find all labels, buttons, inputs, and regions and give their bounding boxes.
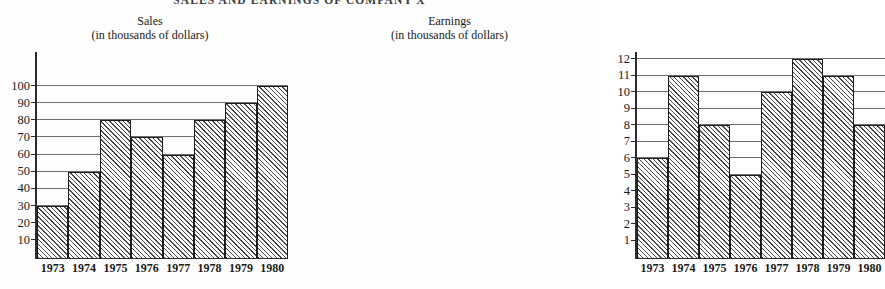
- y-axis-label: 11: [618, 69, 630, 82]
- bar-slot[interactable]: [100, 52, 131, 258]
- y-axis-label: 20: [18, 217, 31, 230]
- y-axis-label: 8: [624, 119, 630, 132]
- x-axis-label: 1977: [163, 261, 194, 275]
- bar[interactable]: [761, 92, 792, 257]
- bar-slot[interactable]: [257, 52, 288, 258]
- bar-slot[interactable]: [637, 52, 668, 258]
- x-axis-labels-sales: 19731974197519761977197819791980: [37, 261, 288, 275]
- bar-slot[interactable]: [225, 52, 256, 258]
- bar[interactable]: [37, 206, 68, 257]
- y-axis-label: 30: [18, 200, 31, 213]
- bar[interactable]: [163, 155, 194, 258]
- bar-slot[interactable]: [699, 52, 730, 258]
- bar-slot[interactable]: [37, 52, 68, 258]
- bar[interactable]: [854, 125, 885, 257]
- x-axis-label: 1977: [761, 261, 792, 275]
- y-axis-label: 12: [618, 53, 631, 66]
- bar-slot[interactable]: [68, 52, 99, 258]
- y-axis-label: 10: [18, 234, 31, 247]
- x-axis-line-sales: [35, 258, 288, 260]
- bar[interactable]: [257, 86, 288, 258]
- y-axis-label: 90: [18, 97, 31, 110]
- bar-group-earnings: [637, 52, 885, 258]
- y-axis-label: 40: [18, 183, 31, 196]
- y-axis-label: 80: [18, 114, 31, 127]
- y-axis-label: 70: [18, 131, 31, 144]
- x-axis-label: 1980: [854, 261, 885, 275]
- x-axis-line-earnings: [635, 258, 885, 260]
- y-axis-label: 1: [624, 235, 630, 248]
- bar-slot[interactable]: [194, 52, 225, 258]
- bar[interactable]: [225, 103, 256, 257]
- bar-slot[interactable]: [730, 52, 761, 258]
- x-axis-label: 1980: [257, 261, 288, 275]
- bar-group-sales: [37, 52, 288, 258]
- plot-area-earnings: 123456789101112: [635, 52, 885, 259]
- chart-title-main-earnings: Earnings: [300, 14, 599, 28]
- bar-slot[interactable]: [131, 52, 162, 258]
- y-axis-label: 7: [624, 135, 630, 148]
- bar-slot[interactable]: [823, 52, 854, 258]
- x-axis-label: 1975: [100, 261, 131, 275]
- x-axis-label: 1974: [68, 261, 99, 275]
- x-axis-label: 1973: [637, 261, 668, 275]
- bar[interactable]: [194, 120, 225, 257]
- bar[interactable]: [823, 76, 854, 258]
- bar[interactable]: [730, 175, 761, 258]
- y-axis-label: 9: [624, 102, 630, 115]
- bar[interactable]: [100, 120, 131, 257]
- page-title: SALES AND EARNINGS OF COMPANY X: [0, 0, 599, 6]
- x-axis-label: 1978: [792, 261, 823, 275]
- x-axis-label: 1976: [730, 261, 761, 275]
- y-axis-label: 10: [618, 86, 631, 99]
- y-axis-label: 5: [624, 169, 630, 182]
- x-axis-label: 1979: [225, 261, 256, 275]
- bar[interactable]: [699, 125, 730, 257]
- bar-slot[interactable]: [792, 52, 823, 258]
- chart-title-earnings: Earnings (in thousands of dollars): [300, 14, 599, 42]
- y-axis-label: 100: [11, 80, 30, 93]
- bar-slot[interactable]: [761, 52, 792, 258]
- x-axis-label: 1976: [131, 261, 162, 275]
- x-axis-label: 1974: [668, 261, 699, 275]
- chart-title-sales: Sales (in thousands of dollars): [0, 14, 300, 42]
- bar-slot[interactable]: [668, 52, 699, 258]
- x-axis-labels-earnings: 19731974197519761977197819791980: [637, 261, 885, 275]
- x-axis-label: 1973: [37, 261, 68, 275]
- chart-subtitle-sales: (in thousands of dollars): [0, 28, 300, 42]
- bar-slot[interactable]: [854, 52, 885, 258]
- chart-subtitle-earnings: (in thousands of dollars): [300, 28, 599, 42]
- x-axis-label: 1978: [194, 261, 225, 275]
- bar[interactable]: [131, 137, 162, 257]
- bar[interactable]: [637, 158, 668, 257]
- bar-slot[interactable]: [163, 52, 194, 258]
- x-axis-label: 1979: [823, 261, 854, 275]
- chart-title-main-sales: Sales: [0, 14, 300, 28]
- y-axis-label: 4: [624, 185, 630, 198]
- bar[interactable]: [792, 59, 823, 258]
- y-axis-label: 2: [624, 218, 630, 231]
- y-axis-label: 60: [18, 148, 31, 161]
- y-axis-label: 6: [624, 152, 630, 165]
- plot-area-sales: 102030405060708090100: [35, 52, 288, 259]
- bar[interactable]: [668, 76, 699, 258]
- y-axis-label: 3: [624, 202, 630, 215]
- x-axis-label: 1975: [699, 261, 730, 275]
- y-axis-label: 50: [18, 166, 31, 179]
- bar[interactable]: [68, 172, 99, 258]
